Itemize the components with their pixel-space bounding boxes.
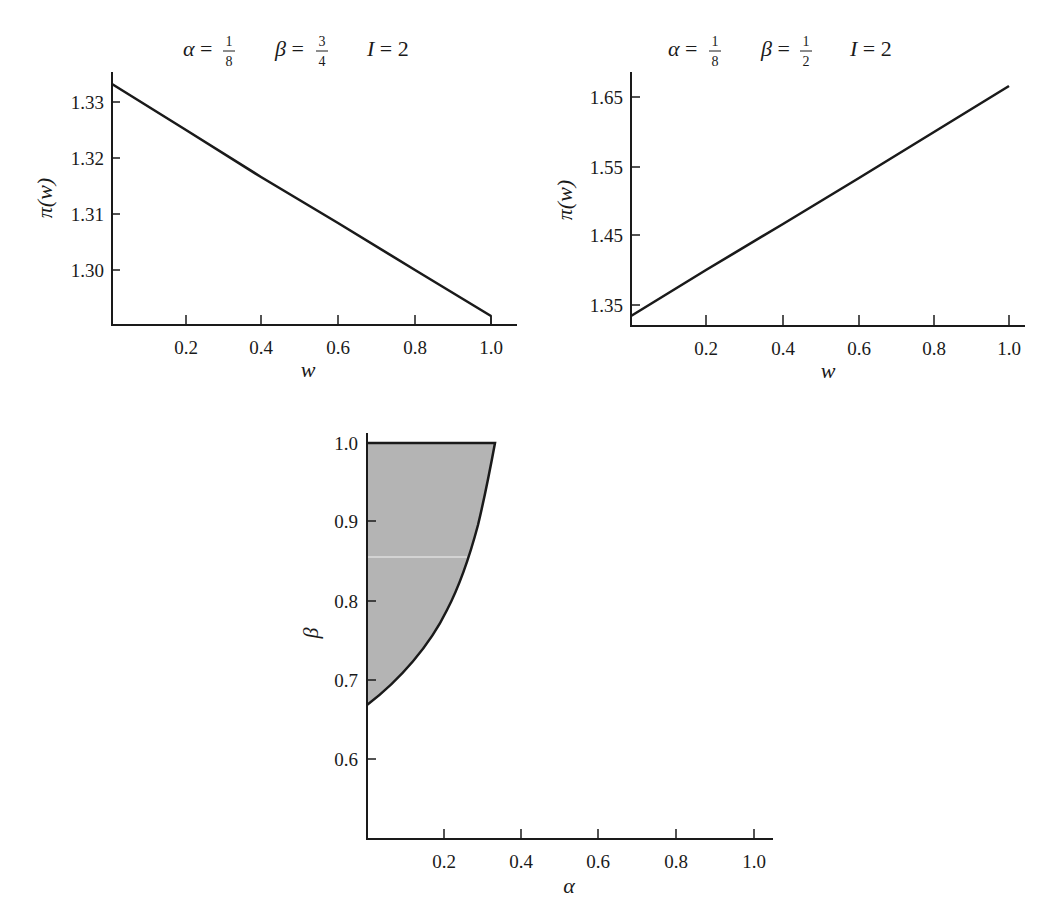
chart-3-xtick-label: 0.2 <box>432 851 456 872</box>
chart-1-y-axis-title: π(w) <box>32 178 57 218</box>
chart-2-ytick-label: 1.55 <box>590 157 623 178</box>
chart-3-xtick-label: 0.8 <box>664 851 688 872</box>
chart-1-beta-numerator: 3 <box>319 34 326 49</box>
chart-2-alpha-numerator: 1 <box>712 34 719 49</box>
chart-3-x-ticks: 0.2 0.4 0.6 0.8 1.0 <box>432 829 766 872</box>
chart-1-ytick-label: 1.31 <box>71 204 104 225</box>
chart-1-I-label: I = 2 <box>366 36 409 61</box>
chart-2-y-ticks: 1.65 1.55 1.45 1.35 <box>590 87 640 316</box>
chart-1-xtick-label: 0.6 <box>326 337 350 358</box>
chart-2-xtick-label: 0.2 <box>694 338 718 359</box>
chart-2-xtick-label: 1.0 <box>997 338 1021 359</box>
chart-1-alpha-denominator: 8 <box>226 54 233 69</box>
chart-2-I-label: I = 2 <box>849 36 892 61</box>
chart-1-alpha-numerator: 1 <box>226 34 233 49</box>
chart-2-xtick-label: 0.6 <box>847 338 871 359</box>
figure-canvas: α = 1 8 β = 3 4 I = 2 1.33 1.32 1.31 1.3… <box>0 0 1064 923</box>
chart-3: 1.0 0.9 0.8 0.7 0.6 0.2 0.4 0.6 0.8 1.0 … <box>298 433 773 898</box>
chart-2-x-ticks: 0.2 0.4 0.6 0.8 1.0 <box>694 315 1021 359</box>
chart-1-beta-denominator: 4 <box>319 54 326 69</box>
chart-2-ytick-label: 1.65 <box>590 87 623 108</box>
chart-2-xtick-label: 0.4 <box>771 338 795 359</box>
chart-2-alpha-denominator: 8 <box>712 54 719 69</box>
chart-1-title: α = <box>183 36 212 61</box>
chart-2: α = 1 8 β = 1 2 I = 2 1.65 1.55 1.45 1.3… <box>552 34 1025 383</box>
chart-1: α = 1 8 β = 3 4 I = 2 1.33 1.32 1.31 1.3… <box>32 34 517 382</box>
chart-2-beta-label: β = <box>760 36 790 61</box>
chart-2-x-axis-title: w <box>821 358 836 383</box>
chart-1-xtick-label: 0.8 <box>403 337 427 358</box>
chart-1-x-axis-title: w <box>301 357 316 382</box>
chart-2-xtick-label: 0.8 <box>922 338 946 359</box>
chart-1-ytick-label: 1.32 <box>71 148 104 169</box>
chart-3-ytick-label: 1.0 <box>334 433 358 454</box>
chart-1-x-ticks: 0.2 0.4 0.6 0.8 1.0 <box>174 315 503 358</box>
chart-3-xtick-label: 1.0 <box>742 851 766 872</box>
chart-3-ytick-label: 0.9 <box>334 511 358 532</box>
chart-1-xtick-label: 0.2 <box>174 337 198 358</box>
chart-3-ytick-label: 0.8 <box>334 591 358 612</box>
chart-1-xtick-label: 0.4 <box>249 337 273 358</box>
chart-1-beta-label: β = <box>274 36 304 61</box>
chart-2-beta-numerator: 1 <box>803 34 810 49</box>
chart-1-xtick-label: 1.0 <box>479 337 503 358</box>
chart-2-alpha-label: α = <box>668 36 697 61</box>
chart-3-ytick-label: 0.7 <box>334 670 358 691</box>
chart-1-ytick-label: 1.30 <box>71 260 104 281</box>
chart-3-x-axis-title: α <box>563 873 575 898</box>
chart-1-ytick-label: 1.33 <box>71 92 104 113</box>
chart-3-xtick-label: 0.4 <box>509 851 533 872</box>
chart-2-y-axis-title: π(w) <box>552 180 577 220</box>
chart-2-ytick-label: 1.45 <box>590 225 623 246</box>
chart-1-series-line <box>112 84 491 316</box>
chart-3-feasible-region <box>367 443 495 705</box>
chart-3-y-axis-title: β <box>298 627 323 639</box>
chart-2-ytick-label: 1.35 <box>590 295 623 316</box>
chart-2-beta-denominator: 2 <box>803 54 810 69</box>
chart-3-xtick-label: 0.6 <box>586 851 610 872</box>
chart-2-series-line <box>631 86 1009 316</box>
chart-3-ytick-label: 0.6 <box>334 749 358 770</box>
